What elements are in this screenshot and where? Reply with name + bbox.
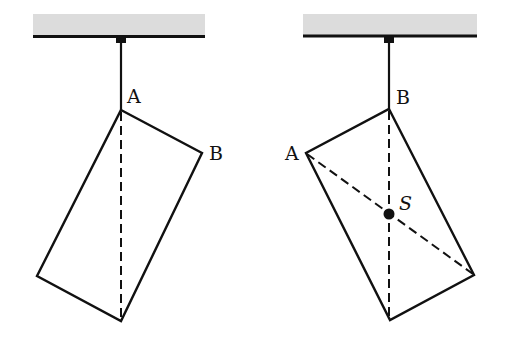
left-rectangle <box>37 110 202 321</box>
right-figure: B A S <box>284 14 477 320</box>
suspension-diagram: A B B A S <box>0 0 506 337</box>
right-label-top: B <box>396 86 410 108</box>
left-ceiling <box>33 14 205 36</box>
center-of-mass-dot <box>384 209 395 220</box>
right-ceiling <box>303 14 477 36</box>
right-label-center: S <box>399 192 412 214</box>
left-label-side: B <box>209 142 223 164</box>
left-label-top: A <box>126 85 141 107</box>
left-figure: A B <box>33 14 223 321</box>
right-label-side: A <box>284 142 299 164</box>
